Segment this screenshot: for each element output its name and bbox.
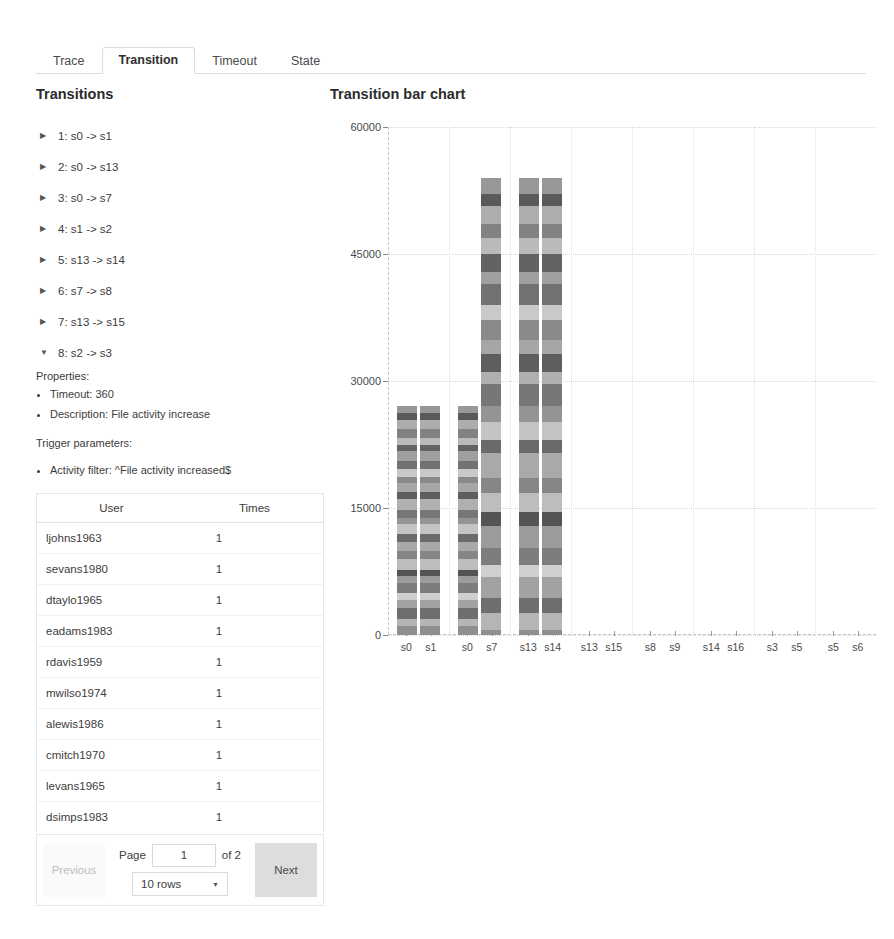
chart-bar-segment[interactable] xyxy=(397,608,418,619)
chart-bar-segment[interactable] xyxy=(542,384,563,406)
chart-bar-segment[interactable] xyxy=(458,600,479,608)
chart-bar-segment[interactable] xyxy=(542,453,563,478)
chart-bar-segment[interactable] xyxy=(519,512,540,526)
chart-bar-segment[interactable] xyxy=(481,453,502,478)
chart-bar-segment[interactable] xyxy=(397,534,418,541)
chart-bar-segment[interactable] xyxy=(481,526,502,548)
chart-bar-segment[interactable] xyxy=(481,206,502,224)
chart-bar-segment[interactable] xyxy=(481,320,502,340)
transition-item-7[interactable]: ▶7: s13 -> s15 xyxy=(40,306,320,337)
chart-bar-segment[interactable] xyxy=(519,354,540,372)
chart-bar[interactable] xyxy=(458,406,479,635)
chart-bar-segment[interactable] xyxy=(397,413,418,420)
chart-bar-segment[interactable] xyxy=(542,422,563,440)
chart-bar-segment[interactable] xyxy=(519,453,540,478)
chart-bar-segment[interactable] xyxy=(542,478,563,493)
chart-bar-segment[interactable] xyxy=(542,372,563,384)
chart-bar-segment[interactable] xyxy=(420,483,441,492)
chart-bar[interactable] xyxy=(481,178,502,635)
chart-bar-segment[interactable] xyxy=(519,284,540,305)
chart-bar-segment[interactable] xyxy=(481,577,502,598)
chart-bar-segment[interactable] xyxy=(397,483,418,492)
chart-bar-segment[interactable] xyxy=(420,510,441,518)
chart-bar-segment[interactable] xyxy=(397,559,418,570)
chart-bar-segment[interactable] xyxy=(420,608,441,619)
chart-bar-segment[interactable] xyxy=(420,499,441,510)
chart-bar-segment[interactable] xyxy=(420,600,441,608)
chart-bar-segment[interactable] xyxy=(542,194,563,206)
chart-bar-segment[interactable] xyxy=(420,420,441,428)
chart-bar-segment[interactable] xyxy=(481,194,502,206)
chart-bar-segment[interactable] xyxy=(481,548,502,565)
chart-bar-segment[interactable] xyxy=(542,254,563,272)
transition-item-8[interactable]: ▼8: s2 -> s3 xyxy=(40,337,320,368)
transition-item-1[interactable]: ▶1: s0 -> s1 xyxy=(40,120,320,151)
caret-right-icon[interactable]: ▶ xyxy=(40,318,54,326)
chart-bar-segment[interactable] xyxy=(458,413,479,420)
tab-state[interactable]: State xyxy=(274,48,337,75)
chart-bar-segment[interactable] xyxy=(519,194,540,206)
chart-bar-segment[interactable] xyxy=(397,619,418,626)
chart-bar-segment[interactable] xyxy=(420,626,441,635)
chart-bar-segment[interactable] xyxy=(397,510,418,518)
tab-trace[interactable]: Trace xyxy=(36,48,102,75)
chart-bar-segment[interactable] xyxy=(481,224,502,238)
chart-bar-segment[interactable] xyxy=(397,438,418,445)
chart-bar-segment[interactable] xyxy=(397,626,418,635)
table-row[interactable]: dsimps19831 xyxy=(37,802,323,833)
chart-bar-segment[interactable] xyxy=(519,272,540,283)
chart-bar-segment[interactable] xyxy=(481,354,502,372)
chart-bar-segment[interactable] xyxy=(458,451,479,461)
chart-bar-segment[interactable] xyxy=(481,422,502,440)
chart-bar-segment[interactable] xyxy=(481,372,502,384)
chart-bar-segment[interactable] xyxy=(397,576,418,583)
chart-bar-segment[interactable] xyxy=(542,630,563,635)
chart-bar-segment[interactable] xyxy=(420,492,441,499)
chart-bar-segment[interactable] xyxy=(519,630,540,635)
chart-bar-segment[interactable] xyxy=(542,493,563,512)
chart-bar-segment[interactable] xyxy=(481,384,502,406)
chart-bar-segment[interactable] xyxy=(458,551,479,559)
chart-bar-segment[interactable] xyxy=(519,372,540,384)
chart-bar-segment[interactable] xyxy=(420,451,441,461)
chart-bar-segment[interactable] xyxy=(397,583,418,593)
chart-bar-segment[interactable] xyxy=(542,206,563,224)
chart-bar-segment[interactable] xyxy=(542,565,563,577)
chart-bar-segment[interactable] xyxy=(519,384,540,406)
table-row[interactable]: dtaylo19651 xyxy=(37,585,323,616)
chart-bar-segment[interactable] xyxy=(397,551,418,559)
tab-transition[interactable]: Transition xyxy=(102,47,196,75)
table-row[interactable]: cmitch19701 xyxy=(37,740,323,771)
chart-bar-segment[interactable] xyxy=(519,340,540,354)
previous-page-button[interactable]: Previous xyxy=(43,843,105,897)
chart-bar-segment[interactable] xyxy=(542,354,563,372)
chart-bar-segment[interactable] xyxy=(542,320,563,340)
chart-bar-segment[interactable] xyxy=(519,478,540,493)
chart-bar-segment[interactable] xyxy=(420,524,441,534)
transition-item-5[interactable]: ▶5: s13 -> s14 xyxy=(40,244,320,275)
chart-bar-segment[interactable] xyxy=(420,559,441,570)
chart-bar-segment[interactable] xyxy=(519,598,540,612)
tab-timeout[interactable]: Timeout xyxy=(195,48,274,75)
chart-bar-segment[interactable] xyxy=(397,524,418,534)
chart-bar-segment[interactable] xyxy=(420,461,441,468)
chart-bar-segment[interactable] xyxy=(519,406,540,422)
chart-bar-segment[interactable] xyxy=(519,238,540,254)
chart-bar-segment[interactable] xyxy=(481,406,502,422)
chart-bar-segment[interactable] xyxy=(519,320,540,340)
chart-bar-segment[interactable] xyxy=(481,254,502,272)
table-row[interactable]: ljohns19631 xyxy=(37,523,323,554)
chart-bar-segment[interactable] xyxy=(458,619,479,626)
chart-bar-segment[interactable] xyxy=(397,492,418,499)
table-row[interactable]: alewis19861 xyxy=(37,709,323,740)
rows-per-page-select[interactable]: 10 rows ▼ xyxy=(132,872,228,896)
chart-bar-segment[interactable] xyxy=(458,483,479,492)
chart-bar-segment[interactable] xyxy=(481,493,502,512)
chart-bar-segment[interactable] xyxy=(397,469,418,477)
chart-bar-segment[interactable] xyxy=(519,206,540,224)
chart-bar-segment[interactable] xyxy=(420,413,441,420)
caret-right-icon[interactable]: ▶ xyxy=(40,132,54,140)
chart-bar-segment[interactable] xyxy=(519,224,540,238)
chart-bar-segment[interactable] xyxy=(481,440,502,453)
chart-bar-segment[interactable] xyxy=(397,461,418,468)
